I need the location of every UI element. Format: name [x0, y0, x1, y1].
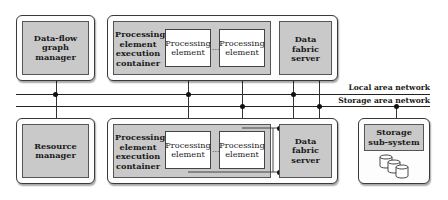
bottom-processing-element-1: Processing element [165, 131, 211, 169]
storage-subsystem-label: Storage sub-system [365, 128, 423, 147]
disk-stack-icon [378, 153, 418, 185]
bottom-processing-element-2: Processing element [219, 131, 265, 169]
storage-subsystem: Storage sub-system [364, 124, 424, 151]
bottom-data-fabric-server: Data fabric server [279, 124, 332, 178]
